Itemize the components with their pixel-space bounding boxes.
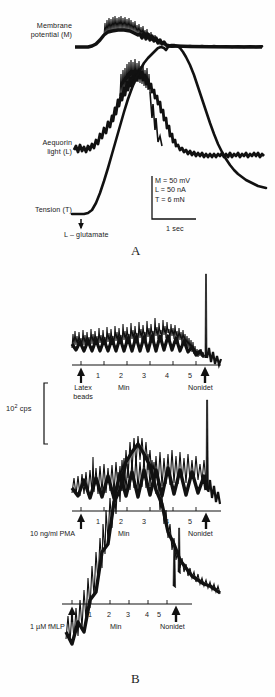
panel-a: Membrane potential (M) Aequorin light (L… <box>0 0 275 252</box>
stimulus-arrow-glutamate <box>78 219 84 230</box>
membrane-label-line2: potential (M) <box>31 30 72 39</box>
pma-stimulus-label: 10 ng/ml PMA <box>30 529 75 538</box>
trace1-nonidet-label: Nonidet <box>188 383 213 392</box>
membrane-potential-trace <box>75 16 262 47</box>
glutamate-stimulus-label: L – glutamate <box>64 231 109 240</box>
trace1-tick-3: 3 <box>142 371 146 380</box>
fmlp-trace-group <box>62 436 220 644</box>
trace2-tick-3: 3 <box>142 517 146 526</box>
trace3-tick-1: 1 <box>88 610 92 619</box>
aequorin-label-line2: light (L) <box>47 147 72 156</box>
scale-light: L = 50 nA <box>155 185 190 194</box>
trace3-tick-2: 2 <box>107 610 111 619</box>
membrane-potential-label: Membrane potential (M) <box>6 22 72 39</box>
panel-b: 102 cps Latex beads Min Nonidet 1 2 3 4 … <box>0 252 275 697</box>
trace1-min-label: Min <box>118 383 130 392</box>
aequorin-light-label: Aequorin light (L) <box>6 139 72 156</box>
tension-label: Tension (T) <box>6 206 72 215</box>
trace2-tick-5: 5 <box>188 517 192 526</box>
trace3-tick-5: 5 <box>157 610 161 619</box>
cps-exponent: 2 <box>14 403 17 409</box>
trace2-tick-4: 4 <box>165 517 169 526</box>
trace1-tick-2: 2 <box>119 371 123 380</box>
latex-line1: Latex <box>74 383 92 392</box>
trace2-min-label: Min <box>118 529 130 538</box>
trace3-min-label: Min <box>110 622 122 631</box>
pma-trace-group <box>72 400 221 529</box>
figure-container: Membrane potential (M) Aequorin light (L… <box>0 0 275 697</box>
latex-line2: beads <box>73 392 93 401</box>
cps-scale-bracket <box>44 383 48 444</box>
trace2-tick-1: 1 <box>96 517 100 526</box>
cps-axis-label: 102 cps <box>6 402 32 414</box>
trace2-tick-2: 2 <box>119 517 123 526</box>
trace3-nonidet-label: Nonidet <box>160 622 185 631</box>
panel-b-letter: B <box>131 671 140 687</box>
trace3-tick-3: 3 <box>126 610 130 619</box>
scale-tension: T = 6 mN <box>155 195 190 204</box>
latex-beads-stimulus-label: Latex beads <box>66 383 100 401</box>
trace3-tick-4: 4 <box>145 610 149 619</box>
trace2-nonidet-label: Nonidet <box>188 529 213 538</box>
cps-units: cps <box>20 404 32 413</box>
scale-bar-values: M = 50 mV L = 50 nA T = 6 mN <box>155 176 190 204</box>
trace1-tick-5: 5 <box>188 371 192 380</box>
aequorin-light-trace <box>74 59 264 157</box>
trace1-tick-4: 4 <box>165 371 169 380</box>
fmlp-stimulus-label: 1 µM fMLP <box>30 622 65 631</box>
scale-membrane: M = 50 mV <box>155 176 190 185</box>
trace1-tick-1: 1 <box>96 371 100 380</box>
time-scale-label: 1 sec <box>166 225 184 234</box>
latex-beads-trace-group <box>72 274 221 383</box>
